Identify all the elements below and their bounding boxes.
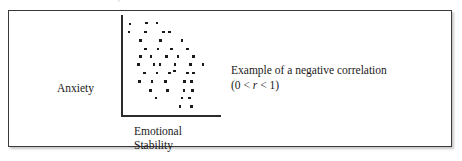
scatter-point	[157, 48, 160, 51]
y-axis-line	[121, 15, 123, 117]
scatter-point	[159, 63, 162, 66]
formula-close: < 1)	[257, 79, 279, 91]
scatter-point	[188, 97, 191, 100]
x-axis-label: Emotional Stability	[134, 125, 182, 152]
caption-block: Example of a negative correlation (0 < r…	[231, 63, 387, 93]
scatter-point	[144, 31, 147, 34]
caption-line-1: Example of a negative correlation	[231, 64, 387, 76]
scatter-plot	[113, 15, 221, 123]
scatter-point	[151, 80, 154, 83]
x-axis-line	[121, 115, 221, 117]
scatter-point	[149, 89, 152, 92]
scatter-point	[183, 80, 186, 83]
x-axis-label-line-2: Stability	[134, 139, 182, 153]
scatter-point	[162, 31, 165, 34]
scatter-point	[145, 22, 148, 25]
scatter-point	[174, 63, 177, 66]
scatter-point	[137, 63, 140, 66]
scatter-point	[192, 72, 195, 75]
scatter-point	[168, 72, 171, 75]
scatter-point	[190, 105, 193, 108]
scatter-point	[168, 31, 171, 34]
scatter-point	[177, 55, 180, 58]
scatter-point	[159, 39, 162, 42]
scatter-point	[191, 89, 194, 92]
formula-open: (0 <	[231, 79, 253, 91]
scatter-point	[202, 63, 205, 66]
scatter-point	[129, 23, 132, 26]
scatter-point	[139, 39, 142, 42]
scatter-point	[179, 105, 182, 108]
scatter-point	[138, 80, 141, 83]
scatter-point	[144, 48, 147, 51]
scatter-point	[143, 72, 146, 75]
scatter-point	[183, 89, 186, 92]
scatter-point	[170, 48, 173, 51]
scatter-point	[165, 55, 168, 58]
scatter-point	[155, 97, 158, 100]
scatter-point	[192, 55, 195, 58]
y-axis-label: Anxiety	[57, 82, 94, 95]
scatter-point	[156, 72, 159, 75]
scatter-point	[181, 39, 184, 42]
x-axis-label-line-1: Emotional	[134, 125, 182, 137]
scatter-point	[181, 97, 184, 100]
scatter-point	[186, 72, 189, 75]
scatter-point	[186, 48, 189, 51]
scatter-point	[150, 55, 153, 58]
scatter-point	[190, 80, 193, 83]
scatter-point	[153, 63, 156, 66]
scatter-point	[166, 89, 169, 92]
figure-frame: Anxiety Emotional Stability Example of a…	[8, 10, 452, 147]
scatter-point	[139, 55, 142, 58]
scatter-point	[164, 80, 167, 83]
scatter-point	[189, 63, 192, 66]
scatter-point	[156, 22, 159, 25]
clipped-glyph-artifact: '	[118, 0, 125, 6]
figure-root: ' Anxiety Emotional Stability Example of…	[0, 0, 462, 161]
caption-formula: (0 < r < 1)	[231, 78, 387, 93]
scatter-point	[128, 31, 131, 34]
scatter-point	[173, 70, 176, 73]
